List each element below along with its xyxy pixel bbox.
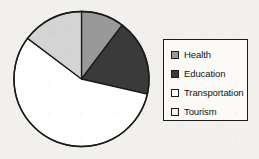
chart-legend: Health Education Transportation Tourism — [163, 39, 248, 121]
legend-item-tourism[interactable]: Tourism — [171, 103, 247, 121]
legend-item-health[interactable]: Health — [171, 46, 247, 64]
legend-swatch-education — [171, 70, 179, 78]
legend-label-education: Education — [184, 69, 225, 79]
legend-item-education[interactable]: Education — [171, 65, 247, 83]
legend-item-transportation[interactable]: Transportation — [171, 84, 247, 102]
legend-swatch-tourism — [171, 108, 179, 116]
legend-swatch-health — [171, 51, 179, 59]
legend-label-health: Health — [184, 50, 211, 60]
pie-chart-figure: Health Education Transportation Tourism — [0, 0, 259, 159]
legend-label-tourism: Tourism — [184, 107, 217, 117]
legend-swatch-transportation — [171, 89, 179, 97]
legend-label-transportation: Transportation — [184, 88, 244, 98]
